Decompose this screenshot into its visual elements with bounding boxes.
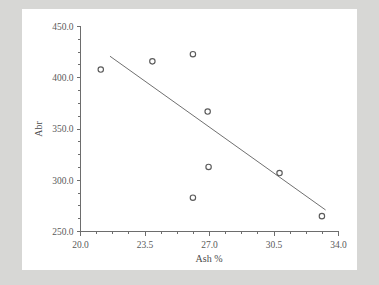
data-point bbox=[205, 109, 210, 114]
x-tick-label: 27.0 bbox=[201, 240, 218, 250]
y-tick-label: 250.0 bbox=[52, 227, 74, 237]
x-tick-label: 34.0 bbox=[330, 240, 347, 250]
data-point bbox=[190, 195, 195, 200]
x-tick-label: 30.5 bbox=[266, 240, 283, 250]
x-tick-label: 23.5 bbox=[137, 240, 154, 250]
y-tick-label: 450.0 bbox=[52, 22, 74, 32]
y-tick-label: 400.0 bbox=[52, 73, 74, 83]
data-point bbox=[277, 170, 282, 175]
data-point bbox=[206, 164, 211, 169]
data-point bbox=[98, 67, 103, 72]
y-axis-tick-labels: 250.0300.0350.0400.0450.0 bbox=[52, 22, 74, 237]
y-axis-major-ticks bbox=[77, 27, 81, 232]
axis-spines bbox=[81, 27, 339, 232]
x-axis-major-ticks bbox=[81, 232, 339, 236]
data-point bbox=[190, 51, 195, 56]
x-tick-label: 20.0 bbox=[72, 240, 89, 250]
y-axis-title: Abr bbox=[33, 121, 44, 137]
data-points bbox=[98, 51, 325, 218]
data-point bbox=[150, 59, 155, 64]
y-tick-label: 350.0 bbox=[52, 124, 74, 134]
trend-line bbox=[110, 56, 326, 210]
x-axis-title: Ash % bbox=[196, 253, 223, 264]
figure-card: 250.0300.0350.0400.0450.0 20.023.527.030… bbox=[22, 9, 357, 270]
x-axis-tick-labels: 20.023.527.030.534.0 bbox=[72, 240, 347, 250]
scatter-plot: 250.0300.0350.0400.0450.0 20.023.527.030… bbox=[22, 9, 357, 270]
y-tick-label: 300.0 bbox=[52, 176, 74, 186]
regression-line bbox=[110, 56, 326, 210]
data-point bbox=[319, 213, 324, 218]
